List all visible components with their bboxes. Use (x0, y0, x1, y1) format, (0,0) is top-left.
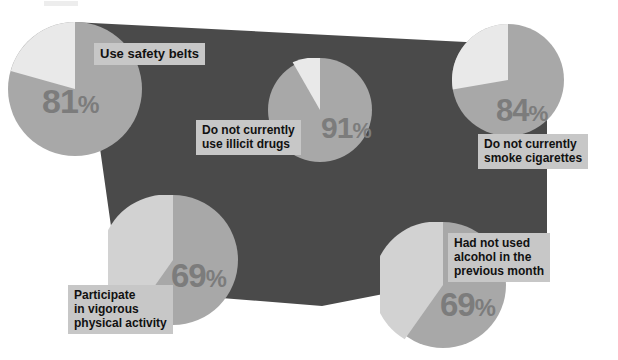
percent-value-alcohol: 69% (440, 288, 495, 321)
label-line-2: use illicit drugs (202, 137, 295, 151)
percent-number: 69 (171, 257, 206, 294)
label-line-1: Do not currently (484, 137, 582, 151)
percent-symbol: % (475, 294, 495, 321)
label-line-2: in vigorous (74, 302, 167, 316)
percent-number: 84 (496, 93, 528, 128)
label-cigarettes: Do not currentlysmoke cigarettes (478, 134, 588, 169)
infographic-canvas: 81% Use safety belts 91% Do not currentl… (0, 0, 618, 360)
percent-symbol: % (352, 118, 370, 143)
label-line-3: physical activity (74, 316, 167, 330)
percent-symbol: % (78, 91, 99, 118)
label-illicit-drugs: Do not currentlyuse illicit drugs (196, 120, 301, 155)
percent-symbol: % (528, 101, 547, 126)
label-line-1: Had not used (454, 236, 544, 250)
label-line-1: Participate (74, 288, 167, 302)
label-safety-belts: Use safety belts (94, 43, 205, 65)
label-line-2: smoke cigarettes (484, 151, 582, 165)
label-text: Use safety belts (100, 46, 199, 61)
percent-value-cigarettes: 84% (496, 95, 547, 126)
percent-number: 81 (42, 82, 78, 120)
percent-value-illicit-drugs: 91% (321, 113, 371, 143)
percent-number: 69 (440, 286, 475, 323)
percent-number: 91 (321, 111, 352, 144)
percent-value-safety-belts: 81% (42, 84, 99, 118)
percent-value-physical-activity: 69% (171, 259, 226, 292)
label-line-1: Do not currently (202, 123, 295, 137)
pie-slice-remainder (452, 24, 508, 90)
label-line-3: previous month (454, 264, 544, 278)
percent-symbol: % (206, 265, 226, 292)
label-physical-activity: Participatein vigorousphysical activity (68, 285, 173, 334)
label-line-2: alcohol in the (454, 250, 544, 264)
label-alcohol: Had not usedalcohol in theprevious month (448, 233, 550, 282)
